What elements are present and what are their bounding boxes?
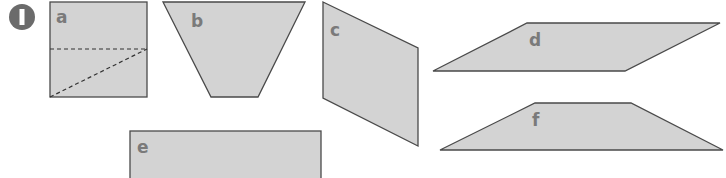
shape-c-parallelogram: c: [323, 2, 418, 146]
shape-label-c: c: [330, 20, 340, 40]
shape-label-a: a: [56, 7, 67, 27]
shape-label-f: f: [532, 110, 540, 130]
shape-d-parallelogram: d: [433, 23, 720, 71]
shape-a-square: a: [50, 2, 147, 97]
shape-f-trapezoid: f: [440, 103, 723, 150]
shape-label-e: e: [137, 137, 149, 157]
shapes-figure: a b c d e f: [0, 0, 726, 178]
exercise-number-badge: [9, 4, 35, 30]
badge-digit: [20, 9, 25, 25]
shape-label-d: d: [529, 30, 541, 50]
shape-e-rectangle: e: [130, 131, 321, 178]
shape-b-trapezoid: b: [163, 2, 305, 97]
shape-label-b: b: [191, 11, 203, 31]
